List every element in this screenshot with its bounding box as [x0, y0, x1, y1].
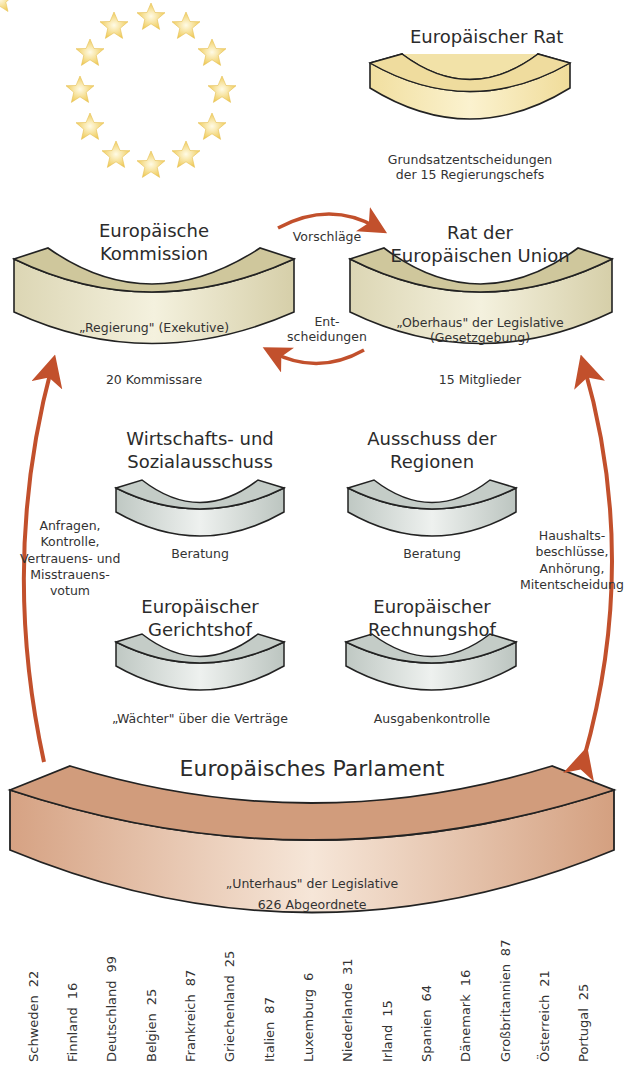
country-name: Österreich	[537, 995, 552, 1062]
country-label: Großbritannien87	[498, 940, 513, 1062]
title-line: Regionen	[342, 451, 522, 474]
label-line: Ent-	[284, 314, 370, 329]
title-line: Gerichtshof	[110, 619, 290, 642]
arrow-entscheidungen	[272, 350, 364, 364]
country-label: Irland15	[380, 1000, 395, 1062]
arrow-label-entscheidungen: Ent- scheidungen	[284, 314, 370, 344]
parlament-members: 626 Abgeordnete	[212, 897, 412, 912]
country-name: Großbritannien	[498, 964, 513, 1062]
gerichtshof-title: Europäischer Gerichtshof	[110, 596, 290, 641]
role-line: „Oberhaus" der Legislative	[380, 315, 580, 330]
parlament-role: „Unterhaus" der Legislative	[212, 876, 412, 891]
country-label: Niederlande31	[340, 958, 355, 1062]
description-line: Grundsatzentscheidungen	[370, 152, 570, 167]
seat-count: 87	[262, 997, 277, 1014]
arrow-label-parlament-kommission: Anfragen, Kontrolle, Vertrauens- und Mis…	[20, 518, 120, 599]
seat-count: 31	[340, 958, 355, 975]
rechnungshof-title: Europäischer Rechnungshof	[342, 596, 522, 641]
arrow-label-parlament-rat: Haushalts- beschlüsse, Anhörung, Mitents…	[520, 528, 624, 593]
title-line: Rat der	[390, 222, 570, 245]
title-line: Rechnungshof	[342, 619, 522, 642]
seat-count: 64	[419, 985, 434, 1002]
label-line: Haushalts-	[520, 528, 624, 544]
seat-count: 21	[537, 970, 552, 987]
label-line: beschlüsse,	[520, 544, 624, 560]
country-name: Belgien	[144, 1013, 159, 1062]
country-label: Dänemark16	[458, 970, 473, 1062]
shape-wirtschafts-sozialausschuss	[116, 480, 284, 536]
country-label: Österreich21	[537, 970, 552, 1062]
country-name: Finnland	[65, 1007, 80, 1062]
title-line: Ausschuss der	[342, 428, 522, 451]
country-name: Frankreich	[183, 994, 198, 1062]
wsa-title: Wirtschafts- und Sozialausschuss	[110, 428, 290, 473]
gerichtshof-role: „Wächter" über die Verträge	[90, 711, 310, 726]
title-line: Europäischer	[342, 596, 522, 619]
role-line: (Gesetzgebung)	[380, 330, 580, 345]
seat-count: 99	[104, 956, 119, 973]
label-line: Kontrolle,	[20, 534, 120, 550]
title-line: Europäischen Union	[390, 245, 570, 268]
label-line: Mitentscheidung	[520, 577, 624, 593]
rat-der-eu-role: „Oberhaus" der Legislative (Gesetzgebung…	[380, 315, 580, 345]
kommission-role: „Regierung" (Exekutive)	[54, 320, 254, 335]
country-label: Portugal25	[576, 984, 591, 1062]
seat-count: 25	[222, 951, 237, 968]
country-name: Griechenland	[222, 975, 237, 1062]
title-line: Sozialausschuss	[110, 451, 290, 474]
seat-count: 87	[498, 940, 513, 957]
country-name: Dänemark	[458, 994, 473, 1062]
title-line: Wirtschafts- und	[110, 428, 290, 451]
label-line: Vertrauens- und	[20, 551, 120, 567]
country-name: Niederlande	[340, 983, 355, 1062]
label-line: Anfragen,	[20, 518, 120, 534]
description-line: der 15 Regierungschefs	[370, 167, 570, 182]
rechnungshof-role: Ausgabenkontrolle	[362, 711, 502, 726]
adr-role: Beratung	[382, 546, 482, 561]
country-name: Schweden	[26, 995, 41, 1062]
seat-count: 25	[144, 989, 159, 1006]
seat-count: 25	[576, 984, 591, 1001]
country-label: Griechenland25	[222, 951, 237, 1062]
rat-der-eu-members: 15 Mitglieder	[410, 372, 550, 387]
country-label: Luxemburg6	[301, 973, 316, 1062]
shape-ausschuss-der-regionen	[348, 480, 516, 536]
rat-der-eu-title: Rat der Europäischen Union	[390, 222, 570, 267]
country-label: Italien87	[262, 997, 277, 1062]
arrow-label-vorschlaege: Vorschläge	[284, 229, 370, 244]
country-name: Deutschland	[104, 980, 119, 1062]
kommission-members: 20 Kommissare	[74, 372, 234, 387]
country-label: Finnland16	[65, 983, 80, 1062]
country-name: Irland	[380, 1025, 395, 1062]
country-name: Italien	[262, 1022, 277, 1062]
parlament-title: Europäisches Parlament	[162, 756, 462, 782]
adr-title: Ausschuss der Regionen	[342, 428, 522, 473]
seat-count: 22	[26, 971, 41, 988]
shape-gerichtshof	[116, 634, 284, 690]
label-line: Misstrauens-	[20, 567, 120, 583]
europaeischer-rat-title: Europäischer Rat	[410, 26, 530, 48]
wsa-role: Beratung	[150, 546, 250, 561]
label-line: Anhörung,	[520, 561, 624, 577]
country-name: Luxemburg	[301, 989, 316, 1062]
seat-count: 16	[458, 970, 473, 987]
seat-count: 16	[65, 983, 80, 1000]
seat-count: 87	[183, 970, 198, 987]
title-line: Europäischer	[110, 596, 290, 619]
country-label: Schweden22	[26, 971, 41, 1062]
country-name: Spanien	[419, 1009, 434, 1062]
seat-count: 15	[380, 1000, 395, 1017]
europaeischer-rat-description: Grundsatzentscheidungen der 15 Regierung…	[370, 152, 570, 182]
label-line: scheidungen	[284, 329, 370, 344]
kommission-title: Europäische Kommission	[74, 220, 234, 265]
label-line: votum	[20, 583, 120, 599]
seat-count: 6	[301, 973, 316, 981]
country-label: Frankreich87	[183, 970, 198, 1062]
country-label: Belgien25	[144, 989, 159, 1062]
arrow-vorschlaege	[278, 214, 378, 228]
title-line: Europäische	[74, 220, 234, 243]
country-name: Portugal	[576, 1008, 591, 1062]
country-label: Spanien64	[419, 985, 434, 1062]
title-line: Kommission	[74, 243, 234, 266]
shape-rechnungshof	[346, 634, 516, 690]
